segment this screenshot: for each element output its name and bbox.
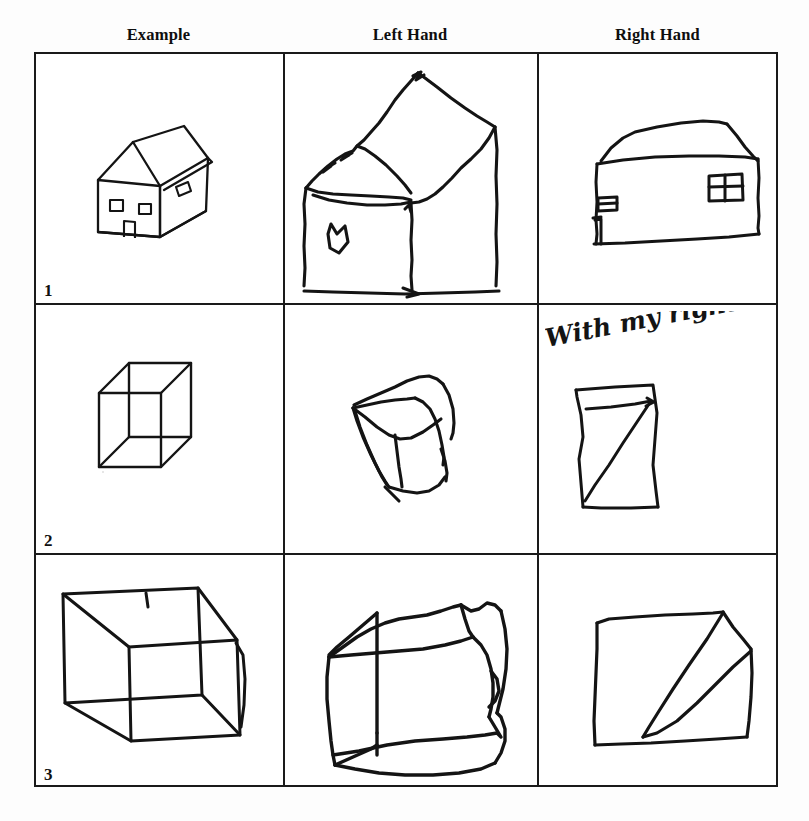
cell-row2-right-hand: With my right Hand (539, 305, 778, 553)
cube-wireframe-large-example-drawing (36, 555, 283, 787)
cell-row1-right-hand (539, 54, 778, 303)
handwriting-note-text: With my right Hand (545, 311, 778, 353)
column-header-example: Example (34, 22, 283, 48)
scan-speckle (102, 471, 104, 473)
column-header-right-hand: Right Hand (537, 22, 778, 48)
column-header-row: Example Left Hand Right Hand (34, 22, 778, 48)
cell-row3-left-hand (285, 555, 537, 787)
figure-root: Example Left Hand Right Hand (0, 0, 809, 821)
house-right-hand-drawing (539, 54, 778, 303)
cube-right-hand-large-drawing (539, 555, 778, 787)
cube-left-hand-large-drawing (285, 555, 537, 787)
row-number-2: 2 (44, 532, 53, 549)
cube-left-hand-small-drawing (285, 305, 537, 553)
house-left-hand-drawing (285, 54, 537, 303)
column-header-left-hand: Left Hand (283, 22, 537, 48)
cell-row3-example: 3 (36, 555, 283, 787)
row-number-1: 1 (44, 282, 53, 299)
cell-row3-right-hand (539, 555, 778, 787)
cell-row1-example: 1 (36, 54, 283, 303)
cell-row2-left-hand (285, 305, 537, 553)
house-3d-example-drawing (36, 54, 283, 303)
cell-row2-example: 2 (36, 305, 283, 553)
drawing-grid: 1 (34, 52, 778, 787)
handwriting-note-right-hand: With my right Hand (545, 311, 778, 357)
cell-row1-left-hand (285, 54, 537, 303)
row-number-3: 3 (44, 766, 53, 783)
cube-wireframe-small-example-drawing (36, 305, 283, 553)
